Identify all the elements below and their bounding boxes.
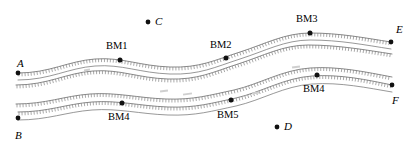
- hachure-tick: [241, 63, 242, 66]
- hachure-tick: [125, 61, 126, 64]
- hachure-tick: [276, 85, 277, 88]
- point-marker-B[interactable]: [16, 116, 21, 121]
- hachure-tick: [44, 102, 45, 105]
- hachure-tick: [274, 77, 275, 80]
- point-marker-BM4l[interactable]: [120, 101, 125, 106]
- point-marker-F[interactable]: [390, 83, 395, 88]
- hachure-tick: [243, 51, 244, 54]
- hachure-tick: [62, 98, 63, 101]
- hachure-tick: [46, 110, 47, 113]
- hachure-tick: [47, 101, 48, 104]
- hachure-tick: [207, 104, 208, 107]
- hachure-tick: [66, 65, 67, 68]
- hachure-tick: [260, 56, 261, 59]
- point-marker-BM3[interactable]: [308, 31, 313, 36]
- hachure-tick: [262, 90, 263, 93]
- hachure-tick: [78, 104, 79, 107]
- hachure-tick: [67, 76, 68, 79]
- hachure-tick: [356, 71, 357, 74]
- hachure-tick: [200, 65, 201, 68]
- hachure-tick: [277, 76, 278, 79]
- hachure-tick: [365, 38, 366, 41]
- hachure-tick: [291, 71, 292, 74]
- hachure-tick: [120, 72, 121, 75]
- point-marker-C[interactable]: [146, 20, 151, 25]
- hachure-tick: [374, 74, 375, 77]
- hachure-tick: [378, 52, 379, 55]
- hachure-tick: [248, 95, 249, 98]
- hachure-tick: [384, 84, 385, 87]
- faint-mark: [160, 89, 168, 92]
- band-lower-scarp-crest: [16, 68, 392, 108]
- hachure-tick: [50, 81, 51, 84]
- hachure-tick: [293, 79, 294, 82]
- hachure-tick: [219, 102, 220, 105]
- hachure-tick: [129, 74, 130, 77]
- scarp-line-lower-band: [18, 76, 392, 112]
- hachure-tick: [43, 71, 44, 74]
- hachure-tick: [255, 58, 256, 61]
- hachure-tick: [362, 72, 363, 75]
- hachure-ticks: [17, 68, 389, 108]
- point-marker-BM1[interactable]: [118, 58, 123, 63]
- hachure-tick: [41, 83, 42, 86]
- hachure-tick: [365, 72, 366, 75]
- hachure-tick: [228, 56, 229, 59]
- hachure-tick: [126, 73, 127, 76]
- hachure-tick: [259, 91, 260, 94]
- hachure-tick: [249, 60, 250, 63]
- hachure-tick: [383, 75, 384, 78]
- hachure-tick: [37, 72, 38, 75]
- hachure-tick: [64, 77, 65, 80]
- hachure-tick: [211, 62, 212, 65]
- point-marker-BM5[interactable]: [229, 98, 234, 103]
- point-marker-BM2[interactable]: [224, 56, 229, 61]
- band-upper-fault-scarp: [18, 33, 391, 80]
- point-marker-BM4u[interactable]: [315, 73, 320, 78]
- faint-mark: [183, 92, 192, 95]
- hachure-tick: [258, 57, 259, 60]
- hachure-tick: [138, 75, 139, 78]
- hachure-tick: [286, 48, 287, 51]
- hachure-tick: [76, 96, 77, 99]
- hachure-tick: [87, 60, 88, 63]
- hachure-tick: [385, 76, 386, 79]
- hachure-tick: [271, 41, 272, 44]
- hachure-tick: [257, 46, 258, 49]
- hachure-tick: [382, 83, 383, 86]
- hachure-tick: [387, 53, 388, 56]
- hachure-tick: [56, 100, 57, 103]
- point-marker-A[interactable]: [16, 71, 21, 76]
- hachure-tick: [220, 59, 221, 62]
- hachure-tick: [67, 106, 68, 109]
- point-marker-E[interactable]: [389, 40, 394, 45]
- hachure-tick: [210, 104, 211, 107]
- band-upper-scarp-toe: [16, 45, 392, 88]
- hachure-tick: [209, 74, 210, 77]
- point-marker-D[interactable]: [275, 125, 280, 130]
- hachure-tick: [78, 62, 79, 65]
- hachure-tick: [277, 39, 278, 42]
- hachure-tick: [208, 96, 209, 99]
- hachure-tick: [70, 75, 71, 78]
- hachure-tick: [254, 84, 255, 87]
- hachure-tick: [75, 62, 76, 65]
- hachure-tick: [290, 80, 291, 83]
- hachure-tick: [285, 36, 286, 39]
- hachure-tick: [206, 63, 207, 66]
- hachure-tick: [143, 64, 144, 67]
- bands-layer: [16, 33, 392, 120]
- hachure-tick: [362, 38, 363, 41]
- hachure-tick: [75, 104, 76, 107]
- hachure-tick: [72, 63, 73, 66]
- hachure-tick: [243, 62, 244, 65]
- hachure-tick: [202, 97, 203, 100]
- hachure-tick: [377, 40, 378, 43]
- hachure-tick: [265, 89, 266, 92]
- hachure-tick: [143, 77, 144, 80]
- hachure-tick: [249, 86, 250, 89]
- hachure-tick: [292, 46, 293, 49]
- hachure-tick: [260, 45, 261, 48]
- hachure-tick: [243, 88, 244, 91]
- hachure-tick: [251, 48, 252, 51]
